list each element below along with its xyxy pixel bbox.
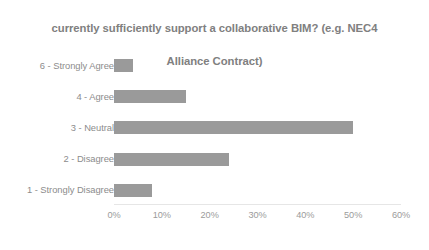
- x-tick-label: 20%: [190, 210, 230, 220]
- category-label: 4 - Agree: [0, 91, 114, 102]
- bar: [114, 184, 152, 197]
- category-label: 3 - Neutral: [0, 122, 114, 133]
- bar: [114, 59, 133, 72]
- bar-chart: currently sufficiently support a collabo…: [0, 0, 429, 250]
- category-label: 1 - Strongly Disagree: [0, 184, 114, 195]
- bar: [114, 121, 353, 134]
- bar: [114, 153, 229, 166]
- x-tick-label: 60%: [381, 210, 421, 220]
- x-axis-line: [114, 204, 401, 205]
- x-tick-label: 0%: [94, 210, 134, 220]
- category-label: 2 - Disagree: [0, 153, 114, 164]
- x-tick-label: 30%: [238, 210, 278, 220]
- x-tick-label: 50%: [333, 210, 373, 220]
- bar: [114, 90, 186, 103]
- x-tick-label: 10%: [142, 210, 182, 220]
- x-tick-label: 40%: [285, 210, 325, 220]
- category-label: 6 - Strongly Agree: [0, 60, 114, 71]
